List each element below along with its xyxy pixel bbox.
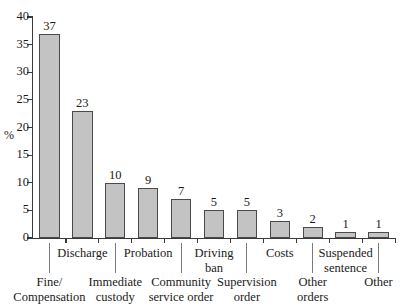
category-label-line2: ban <box>195 261 234 276</box>
category-label: Discharge <box>57 246 107 261</box>
category-label: Drivingban <box>195 246 234 275</box>
category-label: Suspendedsentence <box>319 246 373 275</box>
bar-value-label: 3 <box>277 206 283 221</box>
chart-top-margin <box>0 0 405 4</box>
bar-value-label: 7 <box>178 184 184 199</box>
bar-value-label: 9 <box>145 173 151 188</box>
y-tick-label: 0 <box>23 230 29 245</box>
x-tick-mark <box>164 238 165 243</box>
bar-value-label: 1 <box>375 217 381 232</box>
bar[interactable]: 7 <box>171 199 191 238</box>
leader-line <box>312 243 313 273</box>
plot-area: 37231097553211 <box>33 17 395 238</box>
leader-line <box>115 243 116 273</box>
x-tick-mark <box>197 238 198 243</box>
category-label-line1: Suspended <box>319 246 373 260</box>
category-label: Costs <box>266 246 294 261</box>
y-tick-label: 5 <box>23 202 29 217</box>
category-label-line2: Compensation <box>13 290 85 305</box>
bar[interactable]: 10 <box>105 183 125 238</box>
x-tick-mark <box>98 238 99 243</box>
category-label-line1: Driving <box>195 246 234 260</box>
leader-line <box>181 243 182 273</box>
x-tick-mark <box>263 238 264 243</box>
bar[interactable]: 1 <box>368 232 388 238</box>
bar-value-label: 5 <box>211 195 217 210</box>
bar[interactable]: 1 <box>335 232 355 238</box>
bar-value-label: 37 <box>43 19 56 34</box>
category-label-line2: orders <box>297 290 328 305</box>
bar-value-label: 5 <box>244 195 250 210</box>
bar[interactable]: 9 <box>138 188 158 238</box>
category-label-line2: sentence <box>319 261 373 276</box>
category-label-line1: Other <box>298 275 326 289</box>
bar[interactable]: 37 <box>39 34 59 238</box>
y-tick-label: 30 <box>17 64 30 79</box>
bar[interactable]: 23 <box>72 111 92 238</box>
category-label-line1: Other <box>364 275 392 289</box>
y-tick-label: 15 <box>17 147 30 162</box>
leader-line <box>49 243 50 273</box>
category-label-line2: custody <box>89 290 142 305</box>
bar-chart: % 0510152025303540 37231097553211 Discha… <box>0 0 405 305</box>
category-label: Probation <box>124 246 173 261</box>
y-tick-label: 35 <box>17 37 30 52</box>
x-tick-mark <box>230 238 231 243</box>
category-label: Supervisionorder <box>217 275 277 304</box>
bar[interactable]: 2 <box>303 227 323 238</box>
y-axis-unit-label: % <box>4 128 14 142</box>
x-tick-mark <box>362 238 363 243</box>
bar-value-label: 10 <box>109 168 122 183</box>
category-label-line1: Supervision <box>217 275 277 289</box>
y-tick-label: 40 <box>17 9 30 24</box>
category-label: Immediatecustody <box>89 275 142 304</box>
y-tick-label: 25 <box>17 92 30 107</box>
x-tick-mark <box>131 238 132 243</box>
x-tick-mark <box>395 238 396 243</box>
bar-value-label: 1 <box>342 217 348 232</box>
category-label: Communityservice order <box>149 275 214 304</box>
category-label-line2: service order <box>149 290 214 305</box>
category-label-line1: Fine/ <box>37 275 63 289</box>
bar-value-label: 23 <box>76 96 89 111</box>
leader-line <box>246 243 247 273</box>
category-label: Fine/Compensation <box>13 275 85 304</box>
x-tick-mark <box>65 238 66 243</box>
category-label-line1: Probation <box>124 246 173 260</box>
category-label-line1: Immediate <box>89 275 142 289</box>
bar[interactable]: 5 <box>204 210 224 238</box>
y-tick-label: 10 <box>17 175 30 190</box>
leader-line <box>378 243 379 273</box>
category-label-line1: Costs <box>266 246 294 260</box>
category-label: Other <box>364 275 392 290</box>
bar-value-label: 2 <box>310 212 316 227</box>
bar[interactable]: 3 <box>270 221 290 238</box>
category-label-line1: Community <box>151 275 211 289</box>
y-tick-label: 20 <box>17 120 30 135</box>
category-label: Otherorders <box>297 275 328 304</box>
category-label-line1: Discharge <box>57 246 107 260</box>
category-label-line2: order <box>217 290 277 305</box>
bar[interactable]: 5 <box>237 210 257 238</box>
x-tick-mark <box>296 238 297 243</box>
x-tick-mark <box>329 238 330 243</box>
